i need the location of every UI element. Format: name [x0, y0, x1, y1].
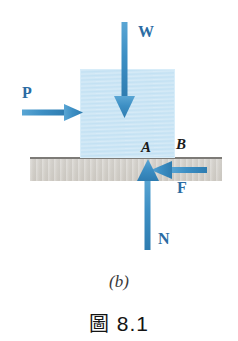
force-label-P: P	[22, 85, 32, 101]
point-label-B: B	[176, 137, 186, 152]
force-label-N: N	[158, 231, 170, 247]
force-arrow-N	[137, 159, 159, 250]
force-label-F: F	[177, 180, 187, 196]
figure-caption: 圖 8.1	[0, 308, 238, 337]
sub-figure-caption: (b)	[0, 272, 238, 292]
force-arrow-P	[22, 104, 83, 121]
force-arrow-W	[114, 22, 135, 118]
force-arrow-F	[151, 161, 207, 179]
figure-caption-number: 8.1	[117, 312, 149, 335]
figure-caption-word: 圖	[89, 312, 110, 336]
force-label-W: W	[138, 24, 154, 40]
point-label-A: A	[141, 140, 151, 155]
figure-canvas: W P F N A B (b) 圖 8.1	[0, 0, 238, 341]
